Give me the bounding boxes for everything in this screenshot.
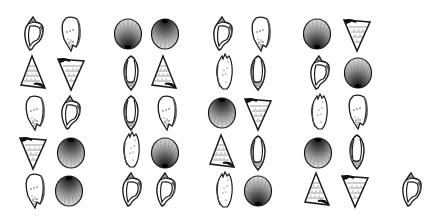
- scallop-shell-dark-bottom-icon: [243, 172, 273, 210]
- scallop-shell-dark-top-icon: [207, 94, 237, 132]
- cone-shell-icon: [20, 94, 50, 132]
- whelk-shell-icon: [56, 94, 86, 132]
- scallop-shell-dark-top-icon: [56, 134, 86, 172]
- olive-shell-icon: [243, 54, 273, 92]
- triangle-shell-up-icon: [207, 133, 237, 171]
- cone-shell-icon: [343, 93, 373, 131]
- whelk-shell-icon: [305, 54, 335, 92]
- broken-shell-icon: [210, 53, 240, 91]
- olive-shell-icon: [116, 54, 146, 92]
- shell-board: Shell matching array: [0, 0, 443, 219]
- triangle-shell-up-icon: [18, 54, 48, 92]
- scallop-shell-dark-top-icon: [150, 15, 180, 53]
- scallop-shell-dark-bottom-icon: [343, 54, 373, 92]
- whelk-shell-icon: [19, 15, 49, 53]
- olive-shell-icon: [243, 134, 273, 172]
- whelk-shell-icon: [208, 15, 238, 53]
- scallop-shell-dark-bottom-icon: [302, 15, 332, 53]
- triangle-shell-down-icon: [243, 94, 273, 132]
- whelk-shell-icon: [151, 171, 181, 209]
- cone-shell-icon: [246, 15, 276, 53]
- scallop-shell-dark-top-icon: [303, 134, 333, 172]
- triangle-shell-down-icon: [340, 171, 370, 209]
- olive-shell-icon: [116, 94, 146, 132]
- olive-shell-icon: [342, 133, 372, 171]
- scallop-shell-dark-top-icon: [54, 172, 84, 210]
- broken-shell-icon: [210, 171, 240, 209]
- whelk-shell-icon: [397, 171, 427, 209]
- triangle-shell-down-icon: [342, 15, 372, 53]
- cone-shell-icon: [56, 15, 86, 53]
- scallop-shell-dark-bottom-icon: [150, 134, 180, 172]
- whelk-shell-icon: [117, 171, 147, 209]
- triangle-shell-up-icon: [149, 54, 179, 92]
- cone-shell-icon: [20, 172, 50, 210]
- triangle-shell-up-icon: [302, 171, 332, 209]
- triangle-shell-down-icon: [18, 133, 48, 171]
- broken-shell-icon: [305, 93, 335, 131]
- cone-shell-icon: [152, 94, 182, 132]
- scallop-shell-dark-bottom-icon: [113, 15, 143, 53]
- triangle-shell-down-icon: [56, 54, 86, 92]
- broken-shell-icon: [117, 131, 147, 169]
